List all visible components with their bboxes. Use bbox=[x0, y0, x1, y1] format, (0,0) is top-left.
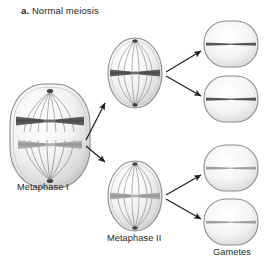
gamete-1 bbox=[204, 21, 258, 67]
cell-metaphase-2-lower bbox=[108, 161, 162, 231]
arrow-m2lower-to-gamete-3 bbox=[166, 175, 201, 195]
arrow-m2lower-to-gamete-4 bbox=[166, 199, 201, 219]
gamete-2 bbox=[204, 76, 258, 122]
label-metaphase-2: Metaphase II bbox=[107, 233, 161, 243]
meiosis-diagram: a. Normal meiosis bbox=[0, 0, 276, 271]
cell-metaphase-2-upper bbox=[108, 38, 162, 108]
cell-metaphase-1 bbox=[10, 84, 90, 188]
arrow-m2upper-to-gamete-1 bbox=[166, 51, 201, 72]
diagram-canvas bbox=[0, 0, 276, 271]
label-metaphase-1: Metaphase I bbox=[17, 182, 69, 192]
gamete-3 bbox=[204, 145, 258, 191]
gamete-4 bbox=[204, 199, 258, 245]
arrow-m2upper-to-gamete-2 bbox=[166, 76, 201, 96]
label-gametes: Gametes bbox=[213, 247, 251, 257]
